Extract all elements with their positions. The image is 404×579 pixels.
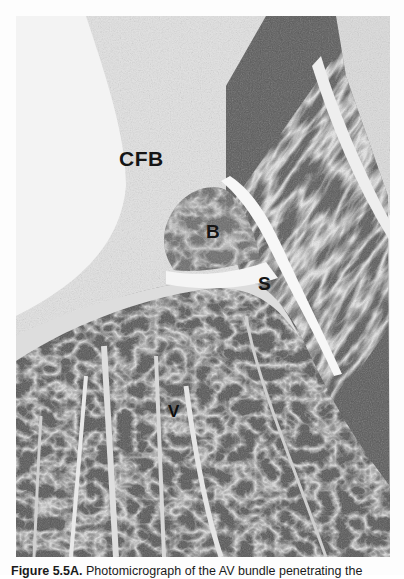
label-central-fibrous-body: CFB bbox=[119, 148, 164, 169]
tissue-section-image bbox=[16, 16, 390, 557]
figure-caption: Figure 5.5A. Photomicrograph of the AV b… bbox=[11, 564, 401, 579]
label-bundle: B bbox=[206, 222, 220, 241]
figure-number: Figure 5.5A. bbox=[11, 564, 83, 578]
label-septum: S bbox=[258, 274, 271, 293]
label-ventricle: V bbox=[168, 403, 180, 420]
caption-text: Photomicrograph of the AV bundle penetra… bbox=[83, 564, 363, 578]
photomicrograph-figure: CFB B S V bbox=[16, 16, 390, 557]
